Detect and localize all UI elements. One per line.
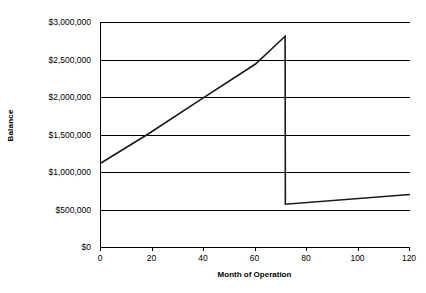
- x-tick-label-100: 100: [338, 253, 378, 263]
- y-tick-label-500000: $500,000: [11, 205, 91, 214]
- x-tick-40: [203, 247, 204, 251]
- x-tick-100: [358, 247, 359, 251]
- y-tick-label-2500000: $2,500,000: [11, 55, 91, 64]
- x-tick-120: [409, 247, 410, 251]
- series-balance-line: [101, 36, 410, 204]
- y-tick-label-1500000: $1,500,000: [11, 130, 91, 139]
- y-tick-label-1000000: $1,000,000: [11, 168, 91, 177]
- x-tick-20: [152, 247, 153, 251]
- x-tick-label-20: 20: [132, 253, 172, 263]
- x-tick-label-60: 60: [235, 253, 275, 263]
- x-tick-label-40: 40: [183, 253, 223, 263]
- y-tick-label-2000000: $2,000,000: [11, 93, 91, 102]
- x-tick-80: [306, 247, 307, 251]
- chart-container: Balance $3,000,000 $2,500,000 $2,000,000…: [0, 0, 426, 293]
- x-tick-label-120: 120: [389, 253, 426, 263]
- y-tick-label-3000000: $3,000,000: [11, 18, 91, 27]
- y-tick-label-0: $0: [11, 243, 91, 252]
- x-tick-label-80: 80: [286, 253, 326, 263]
- x-tick-60: [255, 247, 256, 251]
- x-tick-0: [100, 247, 101, 251]
- plot-area: [100, 22, 410, 248]
- y-axis-tick-labels: $3,000,000 $2,500,000 $2,000,000 $1,500,…: [14, 0, 96, 293]
- series-balance-svg: [101, 22, 410, 247]
- x-tick-label-0: 0: [80, 253, 120, 263]
- x-axis-title: Month of Operation: [100, 270, 409, 279]
